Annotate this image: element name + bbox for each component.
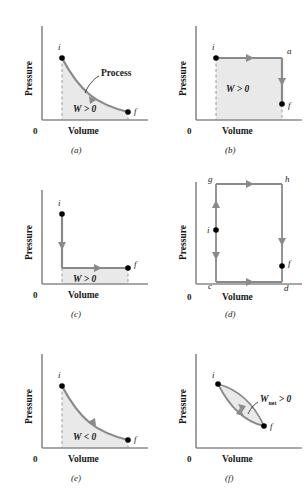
point-f xyxy=(125,437,131,443)
panel-caption: (d) xyxy=(225,309,236,319)
panel-caption: (c) xyxy=(71,309,81,319)
pv-diagram-figure: i f Process W > 0 Pressure Volume 0 (a) … xyxy=(0,0,308,492)
point-label-f: f xyxy=(134,106,138,116)
panel-caption: (f) xyxy=(225,473,234,483)
panel-c: i f W > 0 Pressure Volume 0 (c) xyxy=(0,164,154,328)
work-label: W > 0 xyxy=(226,84,249,94)
panel-d: g h i f c d Pressure Volume 0 (d) xyxy=(154,164,308,328)
point-label-i: i xyxy=(212,42,215,52)
point-i xyxy=(59,211,65,217)
point-label-d: d xyxy=(284,283,289,293)
y-axis-label: Pressure xyxy=(24,61,34,96)
point-label-g: g xyxy=(208,174,213,184)
direction-arrow-down-left xyxy=(212,252,220,260)
panel-caption: (b) xyxy=(225,145,236,155)
panel-a: i f Process W > 0 Pressure Volume 0 (a) xyxy=(0,0,154,164)
x-axis-label: Volume xyxy=(222,126,253,136)
point-label-f: f xyxy=(134,259,138,269)
panel-e: i f W < 0 Pressure Volume 0 (e) xyxy=(0,328,154,492)
y-axis-label: Pressure xyxy=(178,389,188,424)
point-label-h: h xyxy=(285,174,290,184)
origin-label: 0 xyxy=(187,292,192,302)
point-label-i: i xyxy=(207,225,210,235)
work-label: Wnet > 0 xyxy=(260,394,292,406)
origin-label: 0 xyxy=(33,454,38,464)
point-i xyxy=(213,55,219,61)
work-label: W > 0 xyxy=(73,104,96,114)
y-axis-label: Pressure xyxy=(24,389,34,424)
direction-arrow-up xyxy=(212,200,220,208)
work-subscript: net xyxy=(268,400,276,406)
x-axis-label: Volume xyxy=(68,454,99,464)
point-f xyxy=(125,109,131,115)
origin-label: 0 xyxy=(33,290,38,300)
x-axis-label: Volume xyxy=(68,126,99,136)
point-label-a: a xyxy=(287,46,292,56)
x-axis-label: Volume xyxy=(222,292,253,302)
x-axis-label: Volume xyxy=(222,454,253,464)
point-label-f: f xyxy=(134,434,138,444)
panel-f: i f Wnet > 0 Pressure Volume 0 (f) xyxy=(154,328,308,492)
point-i xyxy=(59,383,65,389)
point-f xyxy=(261,423,267,429)
point-f xyxy=(125,265,131,271)
origin-label: 0 xyxy=(33,126,38,136)
work-label: W > 0 xyxy=(73,274,96,284)
point-f xyxy=(279,101,285,107)
point-f xyxy=(279,263,285,269)
panel-caption: (a) xyxy=(71,145,82,155)
panel-caption: (e) xyxy=(71,473,81,483)
point-label-f: f xyxy=(270,421,274,431)
point-i xyxy=(215,381,221,387)
annotation-leader-line xyxy=(85,76,99,93)
origin-label: 0 xyxy=(187,126,192,136)
point-label-i: i xyxy=(58,370,61,380)
origin-label: 0 xyxy=(187,454,192,464)
point-label-f: f xyxy=(288,258,292,268)
direction-arrow-down-right xyxy=(278,238,286,246)
point-label-i: i xyxy=(58,42,61,52)
point-label-c: c xyxy=(208,281,212,291)
y-axis-label: Pressure xyxy=(178,225,188,260)
process-annotation: Process xyxy=(101,68,132,78)
work-label: W < 0 xyxy=(73,432,96,442)
y-axis-label: Pressure xyxy=(24,225,34,260)
point-label-i: i xyxy=(212,370,215,380)
direction-arrow-right-top xyxy=(246,180,254,188)
point-i xyxy=(213,227,219,233)
x-axis-label: Volume xyxy=(68,290,99,300)
work-relation: > 0 xyxy=(276,394,291,404)
point-label-f: f xyxy=(288,100,292,110)
point-label-i: i xyxy=(58,198,61,208)
point-i xyxy=(59,55,65,61)
y-axis-label: Pressure xyxy=(178,61,188,96)
panel-b: i a f W > 0 Pressure Volume 0 (b) xyxy=(154,0,308,164)
direction-arrow-down xyxy=(58,242,66,250)
